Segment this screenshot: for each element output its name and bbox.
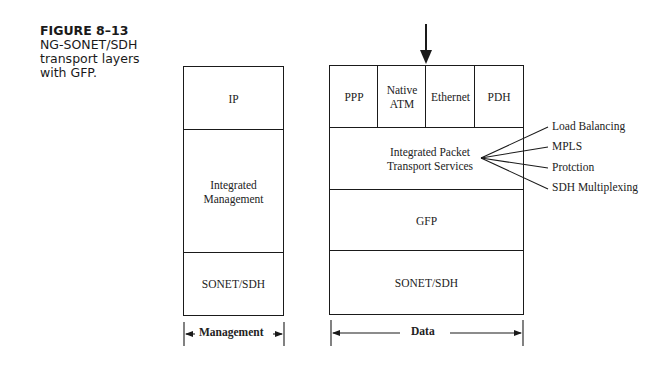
service-load-balancing: Load Balancing [552,120,625,132]
management-dimension-label: Management [196,326,267,338]
input-arrow-icon [420,24,432,64]
service-mpls: MPLS [552,140,582,152]
data-dimension-label: Data [408,325,438,337]
service-fan-lines [481,127,548,189]
service-protection: Protction [552,161,594,173]
service-sdh-multiplexing: SDH Multiplexing [552,181,638,193]
